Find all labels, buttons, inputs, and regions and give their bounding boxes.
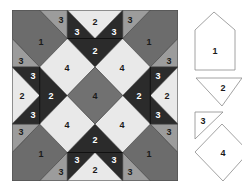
piece-key: 1 2 3 4 [195,12,242,181]
label-3-tr-a: 3 [127,15,132,25]
label-1-br: 1 [146,149,151,159]
label-3-bottom-right-dark: 3 [111,155,116,165]
label-3-top-right-dark: 3 [111,27,116,37]
label-3-bl-b: 3 [18,127,23,137]
label-3-tl-a: 3 [58,15,63,25]
label-3-tl-b: 3 [18,56,23,66]
label-3-tr-b: 3 [166,56,171,66]
label-2-left-light: 2 [19,91,24,101]
large-triangle-icon [196,78,242,106]
label-4-center: 4 [92,91,97,101]
label-2-top-dark: 2 [92,46,97,56]
label-3-br-b: 3 [166,127,171,137]
label-4-lower-right: 4 [119,120,124,130]
label-2-right-light: 2 [164,91,169,101]
label-1-bl: 1 [38,149,43,159]
label-3-left-top-dark: 3 [30,71,35,81]
label-1-tl: 1 [38,37,43,47]
key-piece-2: 2 [196,78,242,106]
label-2-bottom-dark: 2 [92,135,97,145]
label-2-bottom-light: 2 [92,165,97,175]
label-2-left-dark: 2 [48,91,53,101]
label-4-upper-left: 4 [64,63,69,73]
key-label-1: 1 [212,46,217,56]
label-2-top-light: 2 [92,17,97,27]
label-2-right-dark: 2 [136,91,141,101]
label-3-bottom-left-dark: 3 [74,155,79,165]
label-3-right-bottom-dark: 3 [155,110,160,120]
label-3-right-top-dark: 3 [155,71,160,81]
label-4-upper-right: 4 [119,63,124,73]
label-3-br-a: 3 [127,167,132,177]
key-label-3: 3 [200,116,205,126]
key-label-4: 4 [220,148,225,158]
house-shape-icon [195,12,235,70]
label-3-left-bottom-dark: 3 [30,110,35,120]
key-label-2: 2 [220,83,225,93]
label-3-top-left-dark: 3 [74,27,79,37]
label-3-bl-a: 3 [58,167,63,177]
key-piece-1: 1 [195,12,235,70]
label-1-tr: 1 [146,37,151,47]
label-4-lower-left: 4 [64,120,69,130]
